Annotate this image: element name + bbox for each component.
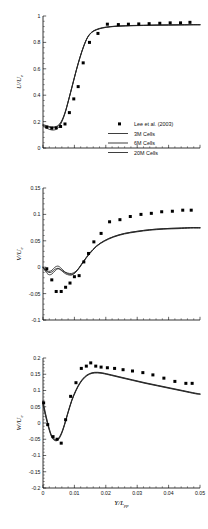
data-marker xyxy=(56,438,59,441)
y-tick-label: 0.05 xyxy=(30,404,40,410)
y-axis-title: V/Ue xyxy=(15,247,24,260)
y-tick-label: -0.15 xyxy=(29,469,41,475)
y-axis-ticks: -0.2-0.15-0.1-0.0500.050.10.150.2 xyxy=(29,355,47,491)
svg-text:Y/Lpp: Y/Lpp xyxy=(114,499,129,508)
data-marker xyxy=(173,380,176,383)
legend-label: Lee et al. (2003) xyxy=(134,121,173,127)
y-tick-label: 0.8 xyxy=(33,39,40,45)
data-marker xyxy=(72,97,75,100)
curve-3m xyxy=(43,228,200,274)
panel-u-velocity: 00.20.40.60.81U/UeLee et al. (2003)3M Ce… xyxy=(0,0,208,176)
marker-series-lee-2003 xyxy=(45,209,192,293)
velocity-profile-figure: 00.20.40.60.81U/UeLee et al. (2003)3M Ce… xyxy=(0,0,208,529)
curve-6m xyxy=(43,373,200,441)
data-marker xyxy=(55,290,58,293)
data-marker xyxy=(162,377,165,380)
data-marker xyxy=(100,366,103,369)
data-marker xyxy=(89,361,92,364)
x-tick-label: 0.01 xyxy=(69,490,79,496)
data-marker xyxy=(69,282,72,285)
data-marker xyxy=(92,240,95,243)
legend-label: 3M Cells xyxy=(134,131,155,137)
data-marker xyxy=(96,32,99,35)
data-marker xyxy=(42,401,45,404)
data-marker xyxy=(60,442,63,445)
curve-20m xyxy=(43,373,200,441)
data-marker xyxy=(148,22,151,25)
chart-v-velocity: -0.1-0.0500.050.10.15V/Ue xyxy=(0,176,208,348)
data-marker xyxy=(160,210,163,213)
y-tick-label: 0.6 xyxy=(33,66,40,72)
svg-text:V/Ue: V/Ue xyxy=(15,247,24,260)
data-marker xyxy=(179,21,182,24)
y-tick-label: 0.2 xyxy=(33,119,40,125)
y-tick-label: 0 xyxy=(38,264,41,270)
data-marker xyxy=(88,41,91,44)
x-axis-ticks: 00.010.020.030.040.05 xyxy=(42,485,206,496)
y-tick-label: -0.1 xyxy=(32,317,41,323)
x-axis-ticks xyxy=(43,317,200,320)
x-tick-label: 0.02 xyxy=(101,490,111,496)
svg-text:W/Ue: W/Ue xyxy=(15,416,24,431)
data-marker xyxy=(87,252,90,255)
data-marker xyxy=(77,85,80,88)
y-tick-label: 0.1 xyxy=(33,211,40,217)
y-tick-label: 0.15 xyxy=(30,185,40,191)
data-marker xyxy=(129,215,132,218)
data-marker xyxy=(78,274,81,277)
curve-6m xyxy=(43,228,200,275)
y-tick-label: -0.05 xyxy=(29,291,41,297)
data-marker xyxy=(117,23,120,26)
legend: Lee et al. (2003)3M Cells6M Cells20M Cel… xyxy=(108,121,173,156)
data-marker xyxy=(50,278,53,281)
data-marker xyxy=(100,232,103,235)
y-tick-label: 0.2 xyxy=(33,355,40,361)
legend-label: 20M Cells xyxy=(134,150,158,156)
data-marker xyxy=(150,212,153,215)
data-marker xyxy=(106,366,109,369)
curve-6m xyxy=(43,25,200,128)
data-marker xyxy=(45,126,48,129)
data-marker xyxy=(184,382,187,385)
y-tick-label: 0.05 xyxy=(30,238,40,244)
data-marker xyxy=(55,126,58,129)
y-axis-ticks: -0.1-0.0500.050.10.15 xyxy=(29,185,47,323)
x-tick-label: 0.04 xyxy=(164,490,174,496)
data-marker xyxy=(158,22,161,25)
data-marker xyxy=(137,22,140,25)
curve-3m xyxy=(43,25,200,127)
x-axis-ticks xyxy=(43,145,200,148)
y-tick-label: -0.2 xyxy=(32,485,41,491)
chart-u-velocity: 00.20.40.60.81U/UeLee et al. (2003)3M Ce… xyxy=(0,0,208,176)
y-axis-ticks: 00.20.40.60.81 xyxy=(33,13,46,151)
data-marker xyxy=(68,111,71,114)
y-tick-label: 0 xyxy=(38,420,41,426)
series-group xyxy=(43,372,200,441)
y-axis-title: W/Ue xyxy=(15,416,24,431)
data-marker xyxy=(80,367,83,370)
data-marker xyxy=(131,370,134,373)
legend-label: 6M Cells xyxy=(134,140,155,146)
series-group xyxy=(43,25,200,131)
data-marker xyxy=(191,382,194,385)
data-marker xyxy=(113,367,116,370)
data-marker xyxy=(46,423,49,426)
y-axis-title: U/Ue xyxy=(15,75,24,89)
data-marker xyxy=(82,61,85,64)
marker-series-lee-2003 xyxy=(42,361,194,444)
data-marker xyxy=(94,365,97,368)
data-marker xyxy=(73,275,76,278)
data-marker xyxy=(122,368,125,371)
data-marker xyxy=(181,209,184,212)
data-marker xyxy=(64,286,67,289)
y-tick-label: -0.05 xyxy=(29,436,41,442)
data-marker xyxy=(64,418,67,421)
legend-marker-swatch xyxy=(118,122,121,125)
curve-3m xyxy=(43,372,200,439)
svg-text:U/Ue: U/Ue xyxy=(15,75,24,89)
data-marker xyxy=(141,371,144,374)
axes xyxy=(43,16,200,148)
data-marker xyxy=(190,209,193,212)
x-tick-label: 0 xyxy=(42,490,45,496)
x-tick-label: 0.03 xyxy=(132,490,142,496)
